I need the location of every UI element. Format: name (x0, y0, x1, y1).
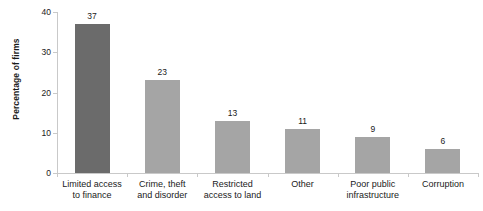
y-tick-label: 40 (27, 7, 51, 17)
bar-value-label: 9 (370, 124, 375, 134)
x-category-label: Crime, theft and disorder (137, 179, 187, 201)
bar (355, 137, 390, 173)
bar (215, 121, 250, 173)
x-tick-mark (57, 173, 58, 177)
bar (145, 80, 180, 173)
bar-chart: Percentage of firms 010203040 3723131196… (0, 0, 483, 211)
x-tick-mark (127, 173, 128, 177)
y-axis-title: Percentage of firms (11, 19, 21, 139)
x-tick-mark (478, 173, 479, 177)
bar (75, 24, 110, 173)
y-axis-line (57, 12, 58, 173)
bar-value-label: 13 (228, 108, 237, 118)
bar-value-label: 11 (298, 116, 307, 126)
bar (425, 149, 460, 173)
x-category-label: Restricted access to land (204, 179, 262, 201)
x-tick-mark (197, 173, 198, 177)
x-tick-mark (338, 173, 339, 177)
y-tick-label: 0 (27, 168, 51, 178)
x-category-label: Corruption (422, 179, 464, 190)
y-tick-mark (53, 52, 57, 53)
plot-area: 010203040 3723131196 (57, 12, 478, 173)
y-tick-mark (53, 12, 57, 13)
y-tick-label: 20 (27, 88, 51, 98)
x-tick-mark (408, 173, 409, 177)
bar-value-label: 37 (87, 11, 96, 21)
bar-value-label: 6 (441, 136, 446, 146)
bar-value-label: 23 (158, 67, 167, 77)
x-category-label: Poor public infrastructure (346, 179, 399, 201)
y-tick-mark (53, 93, 57, 94)
x-category-label: Other (291, 179, 314, 190)
y-tick-label: 30 (27, 47, 51, 57)
x-tick-mark (268, 173, 269, 177)
y-tick-label: 10 (27, 128, 51, 138)
y-tick-mark (53, 133, 57, 134)
bar (285, 129, 320, 173)
x-category-label: Limited access to finance (62, 179, 122, 201)
